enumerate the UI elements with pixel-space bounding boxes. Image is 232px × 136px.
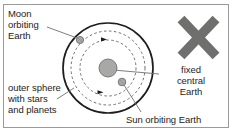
label-fixed-central-earth: fixed central Earth [160,64,222,98]
label-moon-orbiting-earth: Moon orbiting Earth [8,8,39,42]
moon-orbit-direction-arrow-icon [101,37,107,41]
sun-orbit-direction-arrow-icon [98,90,104,94]
cross-mark-icon [181,19,216,56]
geocentric-model-figure: Moon orbiting Earth outer sphere with st… [0,0,232,136]
earth-body [99,59,117,77]
label-outer-sphere-with-stars-and-planets: outer sphere with stars and planets [8,82,61,116]
label-sun-orbiting-earth: Sun orbiting Earth [126,114,201,125]
leader-line-moon [47,27,77,38]
